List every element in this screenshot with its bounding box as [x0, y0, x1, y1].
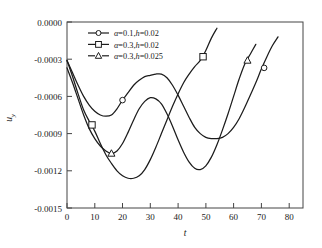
legend-label: α=0.3,h=0.02 — [114, 41, 159, 50]
x-tick-group — [67, 203, 289, 208]
x-tick-label: 30 — [146, 212, 156, 222]
chart-legend: α=0.1,h=0.02α=0.3,h=0.02α=0.3,h=0.025 — [88, 29, 163, 61]
y-axis-title-group: uy — [4, 114, 16, 122]
y-tick-label: -0.0006 — [34, 92, 62, 102]
circle-marker — [120, 97, 126, 103]
y-tick-label: -0.0012 — [34, 166, 62, 176]
square-marker — [96, 42, 102, 48]
triangle-marker — [244, 57, 251, 63]
legend-label: α=0.1,h=0.02 — [114, 29, 159, 38]
y-axis: 0.0000 -0.0003 -0.0006 -0.0009 -0.0012 -… — [34, 18, 72, 214]
y-axis-title-sub: y — [9, 114, 16, 118]
x-axis-title: t — [184, 228, 187, 238]
series-curve — [67, 44, 256, 169]
legend-item-2[interactable]: α=0.3,h=0.02 — [88, 41, 159, 50]
x-tick-label: 40 — [174, 212, 184, 222]
x-tick-label: 0 — [65, 212, 70, 222]
series-2 — [67, 28, 217, 178]
x-tick-label: 20 — [118, 212, 128, 222]
y-axis-title: uy — [4, 114, 16, 122]
y-tick-group — [67, 22, 72, 208]
y-tick-label: -0.0003 — [34, 55, 62, 65]
x-tick-label: 80 — [285, 212, 295, 222]
chart-figure: 0.0000 -0.0003 -0.0006 -0.0009 -0.0012 -… — [0, 0, 322, 248]
square-marker — [89, 122, 95, 128]
series-layer — [67, 28, 278, 178]
circle-marker — [96, 31, 101, 36]
y-tick-label: 0.0000 — [37, 18, 62, 28]
y-tick-label: -0.0015 — [34, 204, 62, 214]
series-3 — [67, 44, 256, 169]
circle-marker — [261, 65, 267, 71]
x-tick-label: 10 — [90, 212, 100, 222]
legend-label: α=0.3,h=0.025 — [114, 52, 163, 61]
legend-item-3[interactable]: α=0.3,h=0.025 — [88, 52, 163, 61]
x-tick-label: 70 — [257, 212, 267, 222]
series-curve — [67, 28, 217, 178]
legend-item-1[interactable]: α=0.1,h=0.02 — [88, 29, 159, 38]
square-marker — [200, 54, 206, 60]
x-tick-label: 50 — [201, 212, 211, 222]
plot-frame — [67, 22, 303, 208]
chart-svg: 0.0000 -0.0003 -0.0006 -0.0009 -0.0012 -… — [0, 0, 322, 248]
x-tick-label: 60 — [229, 212, 239, 222]
triangle-marker — [95, 52, 101, 58]
y-tick-label: -0.0009 — [34, 129, 62, 139]
